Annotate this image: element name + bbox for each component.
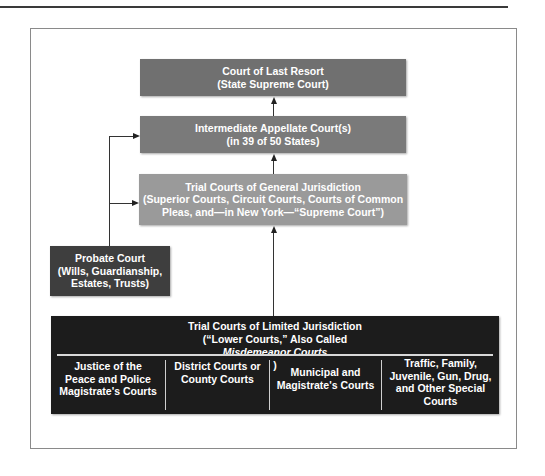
node-intermediate-appellate-court: Intermediate Appellate Court(s) (in 39 o… bbox=[140, 116, 406, 153]
subtitle-italic: Misdemeanor Courts bbox=[223, 346, 327, 358]
node-title: Probate Court bbox=[75, 252, 145, 265]
arrow-up-icon bbox=[271, 226, 277, 233]
connector-general-to-intermediate bbox=[273, 160, 274, 174]
column-line: Peace and Police bbox=[51, 373, 165, 386]
column-line: Magistrate's Courts bbox=[51, 385, 165, 398]
connector-probate-to-general bbox=[109, 203, 132, 204]
column-line: Magistrate's Courts bbox=[270, 379, 381, 392]
top-rule bbox=[0, 6, 508, 8]
node-title: Trial Courts of Limited Jurisdiction bbox=[51, 320, 499, 333]
column-line: District Courts or bbox=[166, 360, 269, 373]
connector-intermediate-to-last-resort bbox=[273, 103, 274, 116]
node-trial-courts-general-jurisdiction: Trial Courts of General Jurisdiction (Su… bbox=[139, 174, 407, 225]
node-title: Intermediate Appellate Court(s) bbox=[195, 122, 351, 135]
column-line: Traffic, Family, bbox=[382, 357, 499, 370]
connector-probate-vertical bbox=[109, 136, 110, 246]
column-line: and Other Special bbox=[382, 382, 499, 395]
arrow-up-icon bbox=[271, 154, 277, 161]
column-district-county-courts: District Courts or County Courts bbox=[166, 360, 269, 385]
node-subtitle: Estates, Trusts) bbox=[71, 277, 149, 290]
node-subtitle: (Superior Courts, Circuit Courts, Courts… bbox=[143, 193, 403, 206]
node-subtitle: (Wills, Guardianship, bbox=[58, 265, 162, 278]
node-trial-courts-limited-jurisdiction: Trial Courts of Limited Jurisdiction (“L… bbox=[51, 316, 499, 414]
column-line: Juvenile, Gun, Drug, bbox=[382, 370, 499, 383]
column-municipal-magistrate-courts: Municipal and Magistrate's Courts bbox=[270, 366, 381, 391]
arrow-right-icon bbox=[133, 133, 140, 139]
column-special-courts: Traffic, Family, Juvenile, Gun, Drug, an… bbox=[382, 357, 499, 407]
column-line: Justice of the bbox=[51, 360, 165, 373]
node-subtitle: Pleas, and—in New York—“Supreme Court”) bbox=[162, 206, 384, 219]
node-title: Court of Last Resort bbox=[222, 65, 324, 78]
node-subtitle: (in 39 of 50 States) bbox=[227, 135, 320, 148]
node-probate-court: Probate Court (Wills, Guardianship, Esta… bbox=[50, 246, 170, 296]
connector-limited-to-general bbox=[273, 232, 274, 316]
connector-probate-to-intermediate bbox=[109, 136, 133, 137]
arrow-up-icon bbox=[271, 97, 277, 104]
column-line: Municipal and bbox=[270, 366, 381, 379]
node-title: Trial Courts of General Jurisdiction bbox=[185, 181, 361, 194]
node-court-of-last-resort: Court of Last Resort (State Supreme Cour… bbox=[140, 59, 406, 96]
column-justice-of-the-peace: Justice of the Peace and Police Magistra… bbox=[51, 360, 165, 398]
column-line: County Courts bbox=[166, 373, 269, 386]
node-subtitle: (State Supreme Court) bbox=[217, 78, 328, 91]
subtitle-prefix: (“Lower Courts,” Also Called bbox=[51, 333, 499, 346]
header-divider bbox=[57, 354, 493, 356]
column-line: Courts bbox=[382, 395, 499, 408]
arrow-right-icon bbox=[132, 200, 139, 206]
